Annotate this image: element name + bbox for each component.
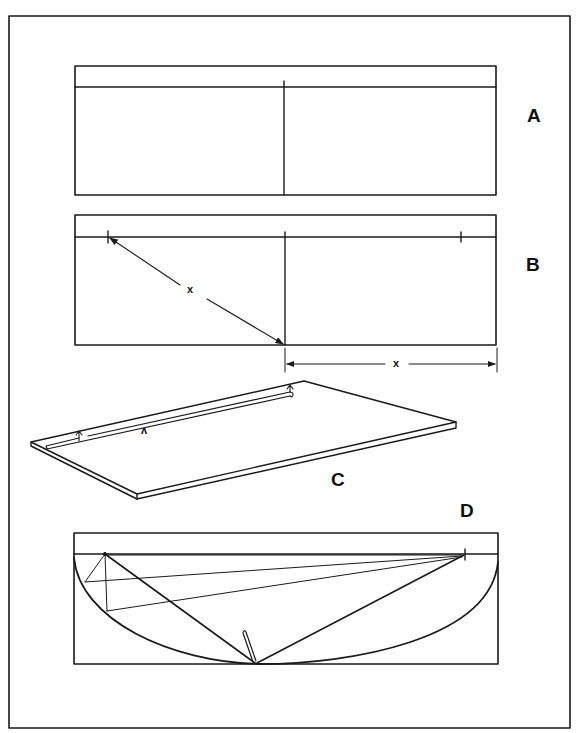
- panel-a-drawing: [75, 66, 496, 195]
- panel-b-drawing: [75, 215, 497, 372]
- outer-frame: [9, 16, 570, 728]
- panel-d-construct-2: [85, 556, 462, 582]
- panel-c-board-top: [31, 381, 456, 494]
- diagram-canvas: [0, 0, 578, 733]
- panel-label-d: D: [460, 501, 474, 520]
- panel-a-board: [75, 66, 496, 195]
- panel-d-drawing: [74, 533, 498, 664]
- panel-d-construct-1: [85, 554, 105, 582]
- groove-mark: ʌ: [138, 425, 150, 436]
- panel-b-diagonal-lower: [207, 299, 283, 344]
- panel-d-board: [74, 533, 498, 664]
- pencil-icon: [243, 631, 256, 662]
- panel-label-c: C: [331, 470, 345, 489]
- panel-d-construct-3: [105, 554, 107, 611]
- panel-d-string-right: [257, 555, 464, 663]
- panel-b-diagonal-upper: [110, 238, 180, 285]
- panel-label-a: A: [527, 106, 541, 125]
- dimension-label-x: x: [390, 358, 402, 369]
- diagonal-label-x: x: [184, 284, 196, 295]
- panel-c-drawing: [31, 381, 456, 499]
- panel-label-b: B: [526, 255, 540, 274]
- panel-d-string-left: [105, 554, 255, 663]
